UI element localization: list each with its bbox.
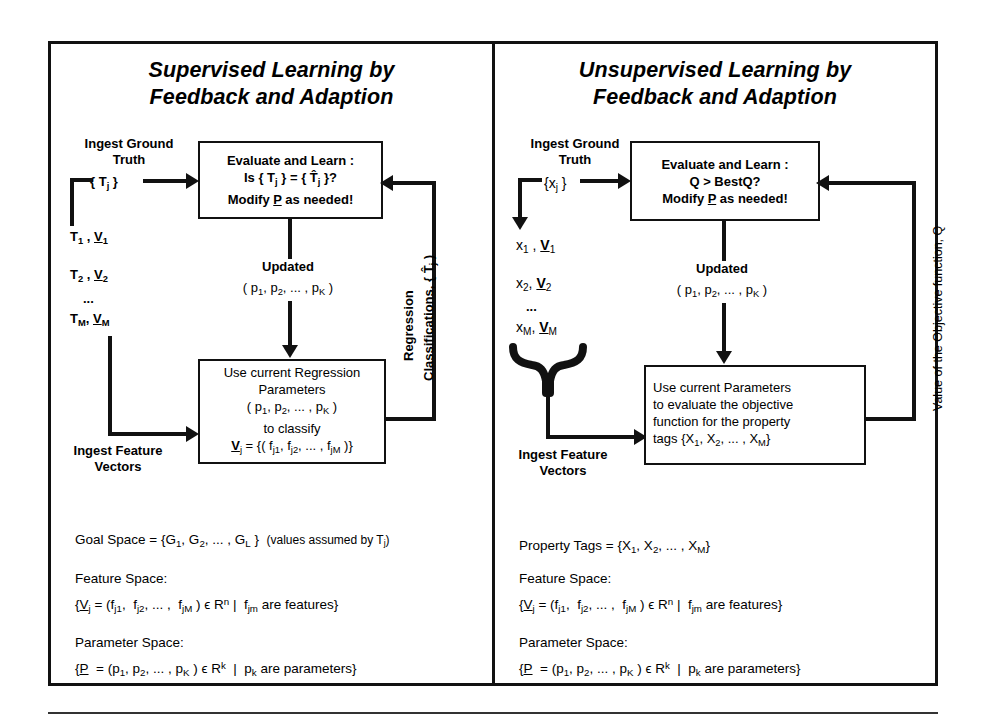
right-truth-arrow-down-head — [512, 217, 528, 230]
bottom-rule — [48, 712, 938, 714]
left-title-line1: Supervised Learning by — [48, 57, 495, 84]
right-updated-shaft-bottom — [722, 303, 726, 353]
left-updated-label: Updated — [228, 259, 348, 275]
left-data-row-m: TM, VM — [70, 311, 109, 331]
left-process-line3: ( p1, p2, ... , pK ) — [200, 398, 384, 420]
left-ingest-features-label: Ingest Feature Vectors — [52, 443, 184, 475]
left-title-line2: Feedback and Adaption — [48, 84, 495, 111]
right-feedback-bottom-horizontal — [864, 417, 916, 421]
left-data-row-1: T1 , V1 — [70, 229, 108, 249]
panel-supervised: Supervised Learning by Feedback and Adap… — [48, 41, 495, 686]
right-panel-title: Unsupervised Learning by Feedback and Ad… — [492, 57, 938, 111]
left-feedback-bottom-horizontal — [384, 417, 436, 421]
right-feature-space-body: {Vj = (fj1, fj2, ... , fjM ) ϵ Rn | fjm … — [519, 593, 782, 618]
right-updated-params: ( p1, p2, ... , pK ) — [654, 282, 790, 302]
left-feature-elbow-horizontal — [108, 432, 190, 436]
right-feature-stem-vertical — [546, 389, 550, 439]
left-data-row-2: T2 , V2 — [70, 267, 108, 287]
right-evaluate-box: Evaluate and Learn : Q > BestQ? Modify P… — [630, 141, 820, 221]
left-updated-shaft-bottom — [288, 301, 292, 347]
right-ingest-truth-line2: Truth — [510, 152, 640, 168]
right-ingest-features-line2: Vectors — [492, 463, 634, 479]
left-panel-title: Supervised Learning by Feedback and Adap… — [48, 57, 495, 111]
right-process-line3: function for the property — [646, 413, 864, 430]
right-evaluate-line1: Evaluate and Learn : — [632, 156, 818, 173]
left-process-box: Use current Regression Parameters ( p1, … — [198, 359, 386, 464]
right-updated-arrow-head — [716, 351, 732, 364]
right-ingest-features-line1: Ingest Feature — [492, 447, 634, 463]
right-feature-space-title: Feature Space: — [519, 570, 611, 588]
left-truth-corner-vertical — [70, 178, 74, 226]
left-goal-space-formula: Goal Space = {G1, G2, ... , GL } (values… — [75, 531, 390, 553]
left-truth-set-token: { Tj } — [90, 174, 118, 194]
right-truth-set-token: {xj } — [544, 175, 567, 196]
left-parameter-space-title: Parameter Space: — [75, 634, 184, 652]
right-title-line2: Feedback and Adaption — [492, 84, 938, 111]
left-updated-arrow-head — [282, 345, 298, 358]
right-property-tags-formula: Property Tags = {X1, X2, ... , XM} — [519, 537, 710, 559]
right-ingest-truth-line1: Ingest Ground — [510, 136, 640, 152]
left-ingest-truth-label: Ingest Ground Truth — [64, 136, 194, 168]
left-updated-params: ( p1, p2, ... , pK ) — [220, 280, 356, 300]
right-data-row-1: x1 , V1 — [516, 237, 555, 258]
right-truth-arrow-shaft — [580, 179, 620, 183]
right-updated-label: Updated — [662, 261, 782, 277]
right-truth-corner-vertical — [518, 178, 522, 220]
right-title-line1: Unsupervised Learning by — [492, 57, 938, 84]
left-ingest-truth-line2: Truth — [64, 152, 194, 168]
right-parameter-space-body: {P = (p1, p2, ... , pK ) ϵ Rk | pk are p… — [519, 657, 801, 682]
right-feedback-vertical — [912, 181, 916, 421]
right-process-line4: tags {X1, X2, ... , XM} — [646, 430, 864, 452]
left-feature-elbow-vertical — [108, 336, 112, 436]
left-data-row-ellipsis: ... — [83, 291, 94, 307]
panel-unsupervised: Unsupervised Learning by Feedback and Ad… — [492, 41, 938, 686]
left-evaluate-line3: Modify P as needed! — [200, 191, 381, 208]
right-data-row-2: x2, V2 — [516, 275, 551, 296]
left-ingest-truth-line1: Ingest Ground — [64, 136, 194, 152]
left-feature-space-body: {Vj = (fj1, fj2, ... , fjM ) ϵ Rn | fjm … — [75, 593, 338, 618]
left-process-line1: Use current Regression — [200, 364, 384, 381]
right-data-row-m: xM, VM — [516, 319, 557, 340]
right-data-row-ellipsis: ... — [526, 299, 537, 315]
right-feedback-label: Value of the Objective function, Q — [930, 226, 946, 411]
right-feature-stem-horizontal — [546, 435, 638, 439]
left-feedback-arrow-head — [380, 175, 393, 191]
right-process-line1: Use current Parameters — [646, 379, 864, 396]
left-evaluate-line1: Evaluate and Learn : — [200, 152, 381, 169]
left-feedback-top-horizontal — [392, 181, 436, 185]
right-evaluate-line3: Modify P as needed! — [632, 190, 818, 207]
right-feedback-arrow-head — [816, 175, 829, 191]
left-feature-space-title: Feature Space: — [75, 570, 167, 588]
left-updated-shaft-top — [288, 219, 292, 259]
left-evaluate-box: Evaluate and Learn : Is { Tj } = { T̂j }… — [198, 141, 383, 219]
left-evaluate-line2: Is { Tj } = { T̂j }? — [200, 169, 381, 191]
left-truth-corner-horizontal — [70, 178, 92, 182]
right-parameter-space-title: Parameter Space: — [519, 634, 628, 652]
left-feedback-label-line1: Regression — [401, 290, 417, 361]
diagram-canvas: Supervised Learning by Feedback and Adap… — [0, 0, 989, 727]
right-feedback-top-horizontal — [828, 181, 916, 185]
right-ingest-features-label: Ingest Feature Vectors — [492, 447, 634, 479]
right-process-box: Use current Parameters to evaluate the o… — [644, 365, 866, 465]
left-process-line5: Vj = {( fj1, fj2, ... , fjM )} — [200, 437, 384, 459]
left-feedback-label-line2: Classifications, { T̂j ) — [421, 255, 441, 381]
right-evaluate-line2: Q > BestQ? — [632, 173, 818, 190]
right-updated-shaft-top — [722, 221, 726, 261]
left-parameter-space-body: {P = (p1, p2, ... , pK ) ϵ Rk | pk are p… — [75, 657, 357, 682]
right-ingest-truth-label: Ingest Ground Truth — [510, 136, 640, 168]
left-ingest-features-line2: Vectors — [52, 459, 184, 475]
left-ingest-features-line1: Ingest Feature — [52, 443, 184, 459]
right-process-line2: to evaluate the objective — [646, 396, 864, 413]
left-process-line4: to classify — [200, 420, 384, 437]
left-process-line2: Parameters — [200, 381, 384, 398]
left-truth-arrow-shaft — [143, 179, 188, 183]
